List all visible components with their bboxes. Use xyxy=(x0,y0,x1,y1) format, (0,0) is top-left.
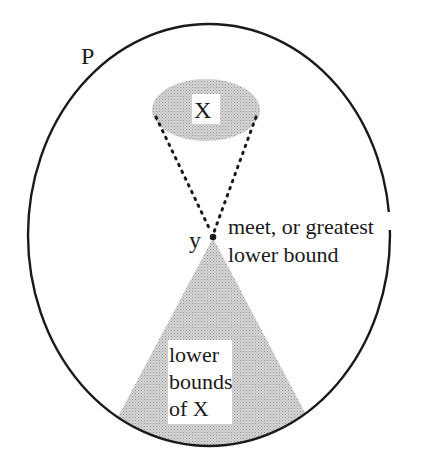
label-gap xyxy=(380,212,394,230)
subset-x-label: X xyxy=(194,97,211,123)
set-p-label: P xyxy=(81,43,94,69)
point-y-label: y xyxy=(189,227,201,253)
meet-label-line1: meet, or greatest xyxy=(228,214,374,239)
lower-bounds-label-line1: lower xyxy=(169,342,220,367)
lower-bounds-label-line3: of X xyxy=(169,396,209,421)
lower-bounds-label-line2: bounds xyxy=(169,369,233,394)
meet-label-line2: lower bound xyxy=(228,242,339,267)
meet-point-y xyxy=(210,234,217,241)
meet-diagram: P X y meet, or greatest lower bound lowe… xyxy=(0,0,437,460)
